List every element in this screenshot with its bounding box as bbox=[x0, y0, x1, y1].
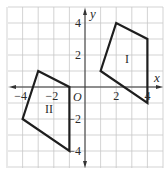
shape-i bbox=[101, 23, 148, 103]
y-tick-label: −2 bbox=[68, 112, 81, 126]
origin-label: O bbox=[73, 90, 82, 104]
x-tick-label: −4 bbox=[14, 89, 27, 103]
x-axis-right-arrow-icon bbox=[156, 85, 163, 89]
y-tick-label: 2 bbox=[75, 48, 81, 62]
y-tick-label: 4 bbox=[75, 16, 81, 30]
x-tick-label: 4 bbox=[144, 89, 150, 103]
x-axis-label: x bbox=[153, 70, 160, 85]
shape-label-ii: II bbox=[45, 102, 53, 116]
shape-label-i: I bbox=[125, 52, 129, 66]
y-axis-label: y bbox=[88, 6, 96, 21]
coordinate-plane-figure: III x y O −4−22442−2−4 bbox=[0, 0, 165, 171]
x-tick-label: 2 bbox=[113, 89, 119, 103]
y-axis-up-arrow-icon bbox=[83, 8, 87, 15]
y-tick-label: −4 bbox=[68, 144, 81, 158]
x-tick-label: −2 bbox=[45, 89, 58, 103]
